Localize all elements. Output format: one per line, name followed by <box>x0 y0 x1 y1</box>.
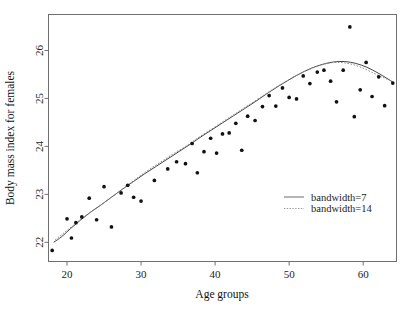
chart-figure: 2030405060 2223242526 Age groups Body ma… <box>0 0 420 312</box>
data-point <box>87 196 91 200</box>
data-point <box>240 148 244 152</box>
x-tick-label: 30 <box>136 268 148 280</box>
data-point <box>383 104 387 108</box>
data-point <box>274 104 278 108</box>
data-point <box>175 160 179 164</box>
data-point <box>253 119 257 123</box>
legend-label: bandwidth=7 <box>311 192 367 203</box>
data-point <box>391 81 395 85</box>
y-tick-label: 25 <box>33 92 45 104</box>
data-point <box>329 79 333 83</box>
legend-label: bandwidth=14 <box>311 203 372 214</box>
data-point <box>370 95 374 99</box>
data-point <box>352 115 356 119</box>
data-point <box>234 122 238 126</box>
x-tick-label: 20 <box>62 268 74 280</box>
x-tick-label: 50 <box>284 268 296 280</box>
data-point <box>102 185 106 189</box>
data-point <box>287 96 291 100</box>
data-point <box>341 68 345 72</box>
data-point <box>119 191 123 195</box>
data-point <box>308 82 312 86</box>
data-point <box>377 75 381 79</box>
data-point <box>227 131 231 135</box>
data-point <box>126 183 130 187</box>
data-points <box>50 25 394 252</box>
fitted-curves <box>54 61 394 242</box>
data-point <box>50 249 54 253</box>
data-point <box>301 74 305 78</box>
data-point <box>358 88 362 92</box>
data-point <box>322 68 326 72</box>
data-point <box>139 199 143 203</box>
data-point <box>195 171 199 175</box>
legend: bandwidth=7bandwidth=14 <box>284 192 372 215</box>
x-tick-label: 40 <box>210 268 222 280</box>
data-point <box>132 195 136 199</box>
y-tick-label: 23 <box>33 188 45 200</box>
y-tick-label: 22 <box>33 237 45 248</box>
data-point <box>209 136 213 140</box>
data-point <box>80 215 84 219</box>
data-point <box>166 167 170 171</box>
x-tick-label: 60 <box>358 268 370 280</box>
data-point <box>221 132 225 136</box>
data-point <box>364 61 368 65</box>
data-point <box>202 150 206 154</box>
data-point <box>261 105 265 109</box>
data-point <box>267 94 271 98</box>
y-tick-label: 24 <box>33 140 45 152</box>
data-point <box>281 86 285 90</box>
data-point <box>335 100 339 104</box>
plot-frame <box>49 15 397 262</box>
y-axis-title: Body mass index for females <box>4 70 17 205</box>
data-point <box>74 221 78 225</box>
fit-curve-solid <box>54 61 394 242</box>
data-point <box>184 162 188 166</box>
y-tick-label: 26 <box>33 44 45 56</box>
data-point <box>110 225 114 229</box>
data-point <box>95 218 99 222</box>
data-point <box>315 70 319 74</box>
data-point <box>70 236 74 240</box>
data-point <box>190 142 194 146</box>
data-point <box>295 97 299 101</box>
data-point <box>65 217 69 221</box>
x-axis-ticks: 2030405060 <box>62 262 370 280</box>
data-point <box>215 151 219 155</box>
data-point <box>348 25 352 29</box>
x-axis-title: Age groups <box>195 288 249 301</box>
scatter-plot-svg: 2030405060 2223242526 Age groups Body ma… <box>0 0 420 312</box>
y-axis-ticks: 2223242526 <box>33 44 48 247</box>
data-point <box>246 114 250 118</box>
data-point <box>153 179 157 183</box>
